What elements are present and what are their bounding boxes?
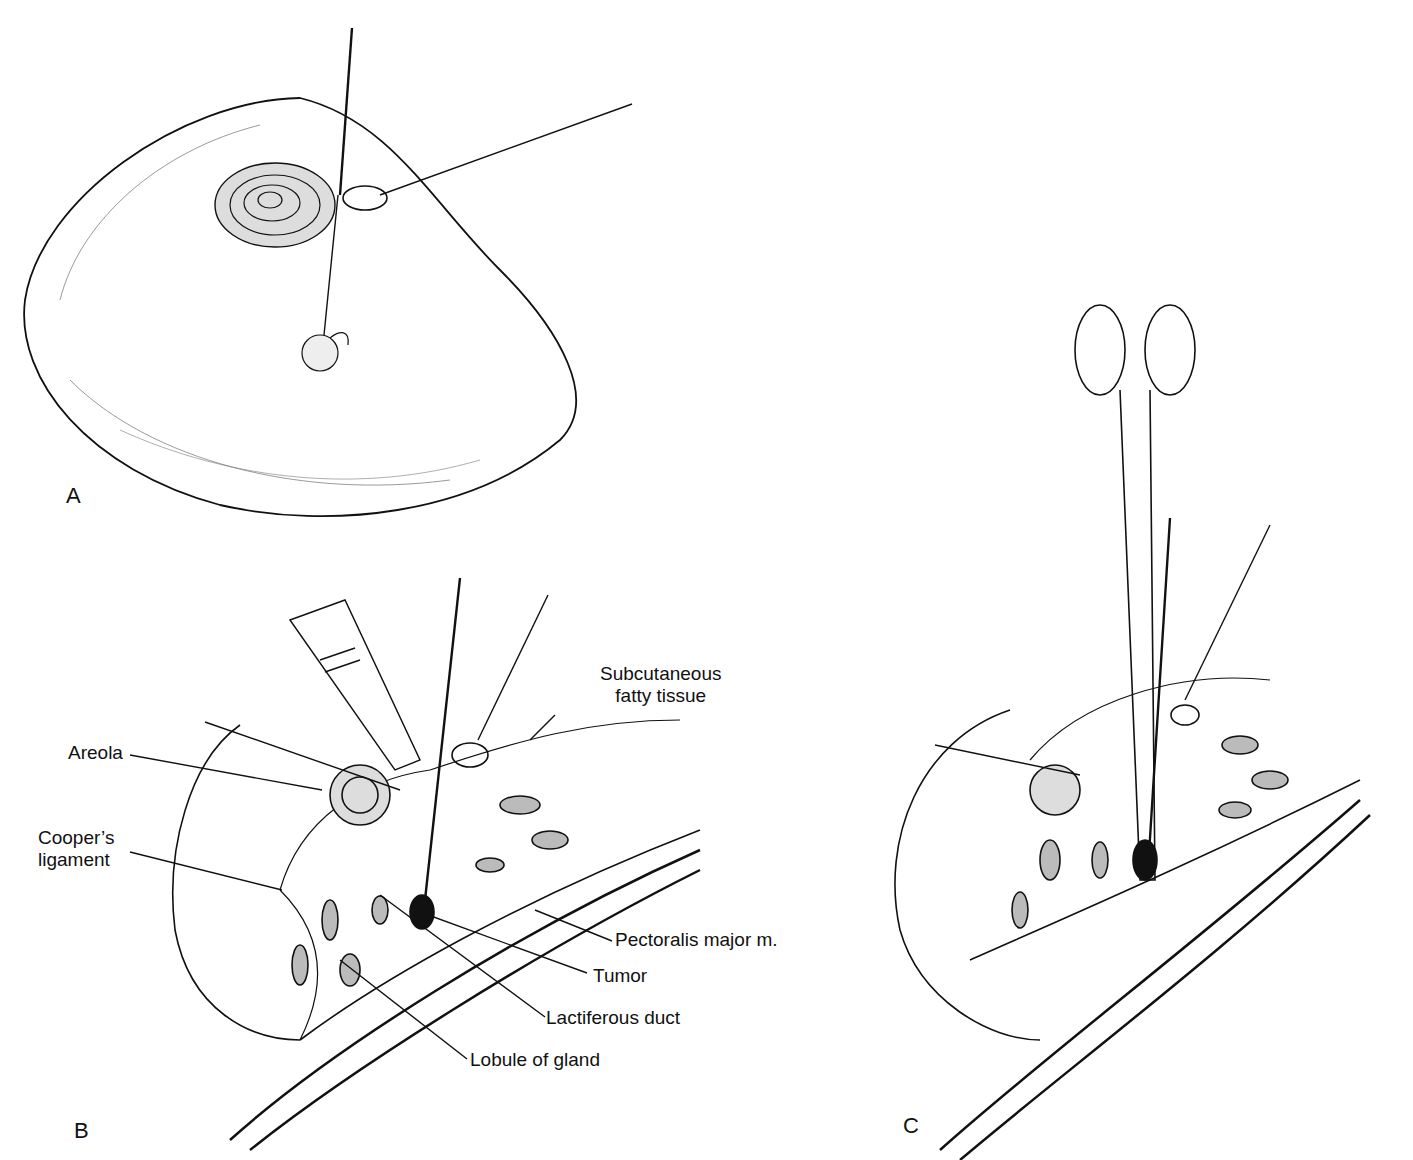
label-coopers-line2: ligament [38,849,114,871]
label-pectoralis-major: Pectoralis major m. [615,929,778,951]
label-areola: Areola [68,742,123,764]
label-tumor: Tumor [593,965,647,987]
label-coopers-line1: Cooper’s [38,827,114,849]
panel-letter-c: C [903,1113,919,1139]
label-subcutaneous-line1: Subcutaneous [600,663,722,685]
illustration-canvas [0,0,1413,1160]
label-coopers-ligament: Cooper’s ligament [38,827,114,871]
label-lactiferous-duct: Lactiferous duct [546,1007,680,1029]
panel-letter-a: A [66,483,81,509]
panel-a-drawing [24,28,632,516]
label-subcutaneous-fatty-tissue: Subcutaneous fatty tissue [600,663,722,707]
label-subcutaneous-line2: fatty tissue [600,685,722,707]
label-lobule-of-gland: Lobule of gland [470,1049,600,1071]
panel-c-drawing [895,305,1370,1160]
panel-letter-b: B [74,1118,89,1144]
